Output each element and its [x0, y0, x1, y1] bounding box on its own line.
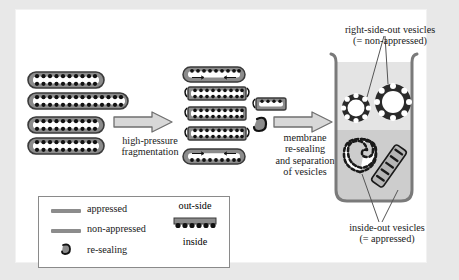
label-line: inside-out vesicles — [316, 222, 458, 233]
membrane-orientation-key: out-side inside — [167, 200, 223, 260]
legend-item-label: re-sealing — [87, 244, 127, 255]
inside-label: inside — [167, 236, 223, 247]
legend-item-label: appressed — [87, 203, 127, 214]
membrane-fragment — [185, 127, 249, 140]
right-side-out-vesicle — [341, 93, 371, 123]
thylakoid-disc — [28, 138, 104, 154]
legend-box: appressed non-appressed re-sealing out-s… — [38, 196, 230, 268]
thylakoid-disc — [28, 72, 104, 88]
fragmentation-arrow-icon — [112, 110, 176, 134]
outside-label: out-side — [167, 200, 223, 211]
right-side-out-vesicle — [374, 83, 412, 121]
re-sealing-icon — [254, 118, 266, 131]
label-line: (= non-appressed) — [316, 35, 459, 46]
beaker-group — [322, 50, 426, 220]
thylakoid-disc — [28, 117, 104, 133]
figure-panel: high-pressure fragmentation — [16, 10, 426, 262]
inside-out-label: inside-out vesicles (= appressed) — [316, 222, 458, 245]
legend-item-label: non-appressed — [87, 223, 146, 234]
non-appressed-swatch-icon — [51, 229, 81, 233]
membrane-fragment — [183, 149, 245, 164]
figure-root: high-pressure fragmentation — [0, 0, 459, 280]
right-side-out-label: right-side-out vesicles (= non-appressed… — [316, 24, 459, 47]
membrane-fragment — [183, 67, 245, 82]
thylakoid-disc — [28, 93, 128, 109]
label-line: (= appressed) — [316, 233, 458, 244]
appressed-swatch-icon — [51, 209, 81, 213]
label-line: right-side-out vesicles — [316, 24, 459, 35]
membrane-fragment — [185, 107, 246, 120]
membrane-key-icon — [173, 217, 217, 231]
re-sealing-icon — [61, 243, 73, 256]
membrane-fragment — [185, 87, 249, 100]
detached-membrane-piece — [253, 98, 286, 110]
